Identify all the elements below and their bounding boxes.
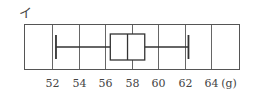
x-axis-tick-labels: 52545658606264 [46,77,219,90]
x-axis-unit-label: (g) [221,77,237,90]
tick-label-60: 60 [152,77,166,90]
tick-label-54: 54 [73,77,87,90]
tick-label-64: 64 [205,77,219,90]
tick-label-62: 62 [179,77,193,90]
tick-label-56: 56 [99,77,113,90]
tick-label-52: 52 [46,77,60,90]
box-plot: 52545658606264 (g) [0,0,259,106]
tick-label-58: 58 [126,77,140,90]
box-and-whiskers [56,34,189,60]
